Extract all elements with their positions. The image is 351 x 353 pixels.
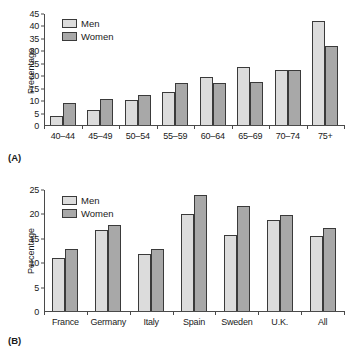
bar-women [108, 225, 121, 311]
bar-women [65, 249, 78, 311]
bar-women [151, 249, 164, 311]
legend-label-men: Men [81, 18, 99, 29]
x-tick-mark [82, 125, 83, 129]
x-tick-label: 40–44 [44, 131, 82, 141]
x-tick-mark [301, 311, 302, 315]
x-tick-mark [157, 125, 158, 129]
x-tick-mark [44, 125, 45, 129]
bar-group [173, 190, 216, 311]
bar-group [307, 14, 345, 125]
legend-label-men: Men [81, 195, 99, 206]
x-tick-label: 55–59 [157, 131, 195, 141]
x-tick-labels-b: FranceGermanyItalySpainSwedenU.K.All [44, 317, 344, 327]
bar-men [312, 21, 325, 125]
x-tick-mark [215, 311, 216, 315]
bar-men [237, 67, 250, 125]
bar-women [194, 195, 207, 311]
bar-group [130, 190, 173, 311]
legend-b: Men Women [62, 195, 114, 221]
bar-men [181, 214, 194, 311]
x-tick-mark [130, 311, 131, 315]
legend-item-men-b: Men [62, 195, 114, 206]
x-tick-label: Sweden [215, 317, 258, 327]
figure-root: 051015202530354045 Precentage Men Women … [0, 0, 351, 353]
bar-men [310, 236, 323, 311]
x-tick-mark [232, 125, 233, 129]
bar-women [280, 215, 293, 311]
x-tick-marks-b [44, 308, 344, 312]
x-tick-mark [194, 125, 195, 129]
bar-group [258, 190, 301, 311]
bar-group [301, 190, 344, 311]
bar-women [175, 83, 188, 125]
bar-men [267, 220, 280, 311]
panel-tag-a: (A) [8, 152, 21, 163]
bar-men [95, 230, 108, 311]
x-tick-label: 75+ [307, 131, 345, 141]
y-axis-title-a: Precentage [26, 47, 36, 93]
x-tick-label: Germany [87, 317, 130, 327]
x-tick-label: Spain [173, 317, 216, 327]
x-tick-label: 50–54 [119, 131, 157, 141]
panel-tag-b: (B) [8, 335, 21, 346]
bar-men [200, 77, 213, 125]
bar-group [269, 14, 307, 125]
x-tick-label: 70–74 [269, 131, 307, 141]
x-tick-mark [87, 311, 88, 315]
bar-women [213, 83, 226, 125]
bar-women [325, 46, 338, 125]
bar-group [215, 190, 258, 311]
legend-item-women-a: Women [62, 31, 114, 42]
bar-women [288, 70, 301, 126]
legend-item-men-a: Men [62, 18, 114, 29]
bar-men [162, 92, 175, 125]
y-tick-label: 0 [34, 308, 44, 317]
chart-panel-b: 0510152025 Percentage Men Women FranceGe… [0, 176, 351, 353]
x-tick-mark [119, 125, 120, 129]
x-tick-mark [307, 125, 308, 129]
legend-swatch-women-icon [62, 32, 77, 41]
x-tick-label: France [44, 317, 87, 327]
bar-men [138, 254, 151, 311]
x-tick-mark [269, 125, 270, 129]
x-tick-label: All [301, 317, 344, 327]
bar-men [275, 70, 288, 125]
bar-women [250, 82, 263, 125]
bar-group [194, 14, 232, 125]
x-tick-mark [344, 311, 345, 315]
bar-women [237, 206, 250, 312]
bar-group [119, 14, 157, 125]
bar-group [157, 14, 195, 125]
x-tick-label: U.K. [258, 317, 301, 327]
x-tick-label: Italy [130, 317, 173, 327]
x-tick-label: 45–49 [82, 131, 120, 141]
x-tick-label: 60–64 [194, 131, 232, 141]
x-tick-labels-a: 40–4445–4950–5455–5960–6465–6970–7475+ [44, 131, 344, 141]
y-tick-label: 0 [34, 122, 44, 131]
x-tick-marks-a [44, 122, 344, 126]
legend-swatch-men-icon [62, 19, 77, 28]
y-axis-title-b: Percentage [26, 228, 36, 274]
legend-swatch-women-icon [62, 209, 77, 218]
bar-women [323, 228, 336, 311]
bar-group [232, 14, 270, 125]
x-tick-mark [173, 311, 174, 315]
x-tick-mark [344, 125, 345, 129]
x-tick-mark [44, 311, 45, 315]
bar-men [224, 235, 237, 311]
legend-a: Men Women [62, 18, 114, 44]
legend-label-women: Women [81, 31, 114, 42]
x-tick-mark [258, 311, 259, 315]
legend-swatch-men-icon [62, 196, 77, 205]
bar-men [52, 258, 65, 311]
legend-label-women: Women [81, 208, 114, 219]
chart-panel-a: 051015202530354045 Precentage Men Women … [0, 0, 351, 176]
legend-item-women-b: Women [62, 208, 114, 219]
bar-women [138, 95, 151, 125]
x-tick-label: 65–69 [232, 131, 270, 141]
